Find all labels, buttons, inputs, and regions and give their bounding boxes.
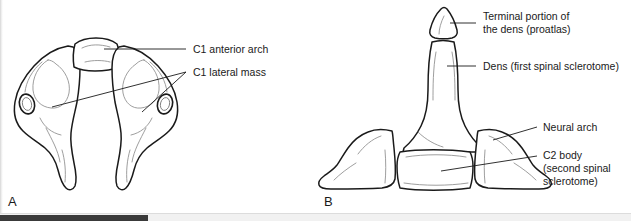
label-c2-body-line2: (second spinal [543, 162, 611, 174]
panel-a-c1-atlas: C1 anterior arch C1 lateral mass A [8, 38, 268, 209]
anatomical-figure: C1 anterior arch C1 lateral mass A [0, 0, 631, 213]
label-c2-body-line1: C2 body [543, 149, 583, 161]
label-dens: Dens (first spinal sclerotome) [483, 60, 619, 72]
horizontal-scrollbar[interactable] [0, 213, 631, 221]
c2-left-neural-arch-shape [319, 130, 396, 189]
label-terminal-portion-dens-line2: the dens (proatlas) [483, 23, 571, 35]
panel-letter-a: A [8, 194, 17, 209]
label-c2-body-line3: sclerotome) [543, 175, 598, 187]
label-terminal-portion-dens-line1: Terminal portion of [483, 10, 569, 22]
dens-shape [403, 41, 483, 153]
figure-viewer: C1 anterior arch C1 lateral mass A [0, 0, 631, 221]
panel-letter-b: B [324, 194, 333, 209]
c1-right-lateral-mass-shape [112, 46, 178, 190]
label-neural-arch: Neural arch [543, 121, 597, 133]
c1-left-lateral-mass-shape [14, 46, 80, 190]
horizontal-scrollbar-thumb[interactable] [0, 215, 148, 221]
label-c1-lateral-mass: C1 lateral mass [193, 66, 266, 78]
c2-right-neural-arch-shape [475, 130, 552, 189]
label-c1-anterior-arch: C1 anterior arch [193, 43, 268, 55]
panel-b-c2-axis: Terminal portion of the dens (proatlas) … [319, 8, 619, 210]
